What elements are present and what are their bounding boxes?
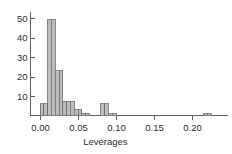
histogram-bar [108,114,112,116]
histogram-bar [207,114,211,116]
histogram-bar [78,110,82,116]
leverages-histogram-plot: 10203040500.000.050.100.150.20Leverages [0,0,232,154]
histogram-bar [67,102,71,116]
histogram-bar [101,104,105,116]
y-tick-label: 40 [17,32,28,43]
y-tick-label: 10 [17,91,28,102]
x-tick-label: 0.05 [69,122,88,133]
histogram-bar [74,110,78,116]
y-tick-label: 20 [17,71,28,82]
x-tick-label: 0.15 [145,122,164,133]
x-axis-title: Leverages [83,136,128,147]
histogram-bar [40,104,44,116]
histogram-bar [82,114,86,116]
histogram-bar [55,71,59,116]
histogram-bar [203,114,207,116]
histogram-bar [63,102,67,116]
histogram-bar [70,102,74,116]
x-tick-label: 0.10 [107,122,126,133]
histogram-bar [105,104,109,116]
histogram-bar [51,20,55,116]
x-tick-label: 0.20 [183,122,202,133]
histogram-bar [44,104,48,116]
y-tick-label: 30 [17,52,28,63]
histogram-bar [48,20,52,116]
histogram-bar [112,114,116,116]
histogram-bar [86,114,90,116]
y-tick-label: 50 [17,13,28,24]
histogram-bar [59,71,63,116]
histogram-figure: 10203040500.000.050.100.150.20Leverages [0,0,232,154]
x-tick-label: 0.00 [31,122,50,133]
